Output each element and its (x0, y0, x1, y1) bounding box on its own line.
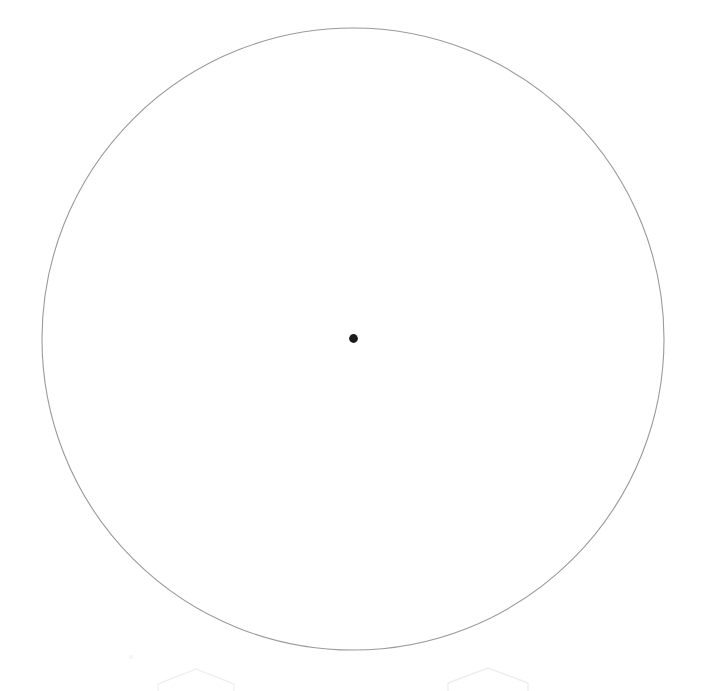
image-canvas: A large thin gray circle outline centere… (0, 0, 703, 691)
pentagon-right-marker (448, 668, 528, 691)
center-point (349, 334, 358, 343)
pentagon-left-marker (158, 669, 234, 691)
figure-svg (0, 0, 703, 691)
faint-speck (129, 655, 133, 659)
